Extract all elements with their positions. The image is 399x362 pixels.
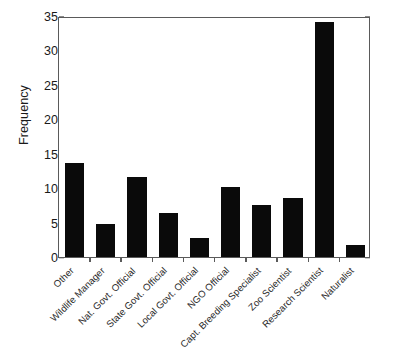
bar bbox=[159, 213, 178, 257]
x-tick-mark bbox=[89, 258, 90, 262]
bar bbox=[283, 198, 302, 257]
y-tick-label: 5 bbox=[18, 217, 58, 231]
x-tick-label: Research Scientist bbox=[260, 265, 325, 330]
y-tick-label: 10 bbox=[18, 182, 58, 196]
bar bbox=[346, 245, 365, 257]
x-tick-mark bbox=[308, 258, 309, 262]
bar bbox=[96, 224, 115, 257]
x-tick-mark bbox=[120, 258, 121, 262]
bar bbox=[252, 205, 271, 257]
y-tick-label: 35 bbox=[18, 10, 58, 24]
bar-chart: Frequency 05101520253035 OtherWildlife M… bbox=[0, 0, 399, 362]
y-tick-label: 30 bbox=[18, 44, 58, 58]
bar bbox=[190, 238, 209, 257]
x-tick-mark bbox=[214, 258, 215, 262]
bar bbox=[315, 22, 334, 257]
x-tick-mark bbox=[339, 258, 340, 262]
x-tick-mark bbox=[245, 258, 246, 262]
y-tick-label: 20 bbox=[18, 113, 58, 127]
x-tick-mark bbox=[152, 258, 153, 262]
x-tick-label: Wildlife Manager bbox=[48, 265, 107, 324]
y-tick-label: 25 bbox=[18, 79, 58, 93]
y-axis-ticks: 05101520253035 bbox=[0, 17, 58, 258]
x-tick-label: Naturalist bbox=[319, 265, 356, 302]
y-axis-ticks-right bbox=[370, 17, 380, 258]
bar bbox=[127, 177, 146, 257]
x-axis-labels: OtherWildlife ManagerNat. Govt. Official… bbox=[0, 263, 399, 362]
plot-frame bbox=[58, 17, 370, 258]
x-tick-label: Other bbox=[51, 265, 76, 290]
plot-area bbox=[59, 18, 369, 257]
y-tick-label: 15 bbox=[18, 148, 58, 162]
x-tick-mark bbox=[276, 258, 277, 262]
bar bbox=[65, 163, 84, 257]
bar bbox=[221, 187, 240, 257]
x-tick-mark bbox=[183, 258, 184, 262]
